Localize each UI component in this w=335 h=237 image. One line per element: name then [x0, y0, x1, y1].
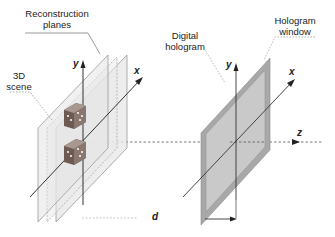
label-digital-hologram: Digital hologram [162, 30, 208, 52]
scene-y-arrowhead [81, 60, 86, 68]
leader-3d-scene [10, 92, 52, 120]
leader-hologram-window [264, 37, 315, 60]
label-3d-scene: 3D scene [6, 70, 32, 92]
holo-y-arrowhead [234, 63, 239, 71]
distance-d-label: d [152, 211, 158, 222]
leader-digital-hologram [205, 50, 225, 83]
holo-x-label: x [289, 66, 295, 77]
label-hologram-window: Hologram window [270, 15, 320, 37]
scene-x-label: x [134, 65, 140, 76]
scene-y-label: y [73, 58, 79, 69]
holo-y-label: y [226, 59, 232, 70]
label-reconstruction-planes: Reconstruction planes [24, 8, 90, 30]
z-arrowhead [292, 139, 300, 145]
leader-reconstruction-planes [25, 33, 100, 54]
z-label: z [297, 127, 302, 138]
